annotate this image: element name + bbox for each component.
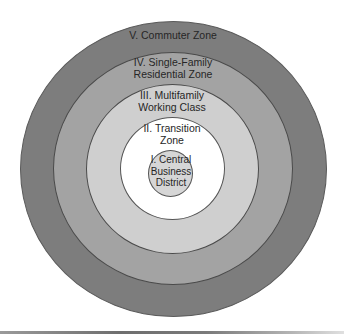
zone-1-label-line-2: Business xyxy=(151,166,192,178)
zone-1-label: I. Central Business District xyxy=(151,154,192,189)
zone-3-label-line-2: Working Class xyxy=(138,101,206,113)
zone-2-label-line-2: Zone xyxy=(143,134,200,146)
zone-5-label: V. Commuter Zone xyxy=(129,29,217,41)
zone-3-label: III. Multifamily Working Class xyxy=(138,89,206,113)
zone-1-label-line-3: District xyxy=(151,177,192,189)
zone-2-label-line-1: II. Transition xyxy=(143,122,200,134)
zone-4-label: IV. Single-Family Residential Zone xyxy=(134,56,213,80)
concentric-zone-diagram: V. Commuter Zone IV. Single-Family Resid… xyxy=(0,0,344,334)
zone-5-label-line-1: V. Commuter Zone xyxy=(129,29,217,41)
zone-4-label-line-2: Residential Zone xyxy=(134,68,213,80)
zone-4-label-line-1: IV. Single-Family xyxy=(134,56,213,68)
zone-1-label-line-1: I. Central xyxy=(151,154,192,166)
zone-3-label-line-1: III. Multifamily xyxy=(138,89,206,101)
zone-2-label: II. Transition Zone xyxy=(143,122,200,146)
